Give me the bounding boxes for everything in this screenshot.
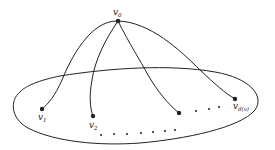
ellipsis-dot — [218, 106, 220, 108]
graph-diagram: v0v1v2vd(v) — [0, 0, 275, 150]
ellipsis-dot — [195, 110, 197, 112]
edge-v0-v2 — [90, 21, 118, 116]
vertex-2 — [91, 114, 95, 118]
label-v2: v2 — [89, 120, 98, 131]
ellipsis-dot — [164, 130, 166, 132]
ellipsis-dot — [208, 108, 210, 110]
ellipsis-dot — [152, 131, 154, 133]
edge-v0-vd — [118, 21, 235, 99]
edge-v0-v1 — [42, 21, 118, 109]
ellipsis-dot — [126, 133, 128, 135]
ellipsis-dot — [113, 133, 115, 135]
label-v1: v1 — [38, 112, 47, 123]
region-boundary — [13, 68, 258, 144]
label-v0: v0 — [113, 7, 122, 18]
label-vd(v): vd(v) — [233, 101, 249, 112]
ellipsis-dot — [100, 134, 102, 136]
edge-v0-v3 — [118, 21, 179, 113]
vertex-1 — [40, 107, 44, 111]
ellipsis-dot — [140, 132, 142, 134]
vertex-v0 — [116, 19, 120, 23]
ellipsis-dot — [174, 129, 176, 131]
vertex-unnamed — [177, 111, 181, 115]
